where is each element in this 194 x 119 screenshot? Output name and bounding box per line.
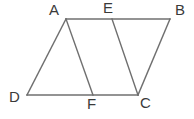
vertex-label-c: C [140, 95, 151, 110]
segment-ec [112, 19, 138, 95]
vertex-label-e: E [103, 0, 113, 15]
geometry-figure: AEBDFC [0, 0, 194, 119]
segment-bc [138, 19, 170, 95]
segment-ad [27, 19, 66, 95]
figure-canvas [0, 0, 194, 119]
vertex-label-a: A [49, 2, 59, 17]
segments-group [27, 19, 170, 95]
vertex-label-f: F [87, 96, 96, 111]
vertex-label-d: D [9, 89, 20, 104]
vertex-label-b: B [175, 2, 185, 17]
segment-af [66, 19, 93, 95]
